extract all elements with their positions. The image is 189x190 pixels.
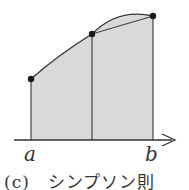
label-b: b <box>145 142 158 166</box>
point-mid <box>89 31 95 37</box>
point-b <box>150 13 156 19</box>
label-a: a <box>24 142 36 166</box>
caption: (c) シンプソン則 <box>4 168 155 190</box>
point-a <box>28 76 34 82</box>
